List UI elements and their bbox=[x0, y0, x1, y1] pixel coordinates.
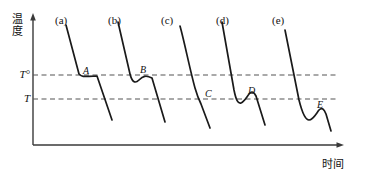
point-label-a: A bbox=[83, 65, 89, 76]
curve-label-e: (e) bbox=[272, 14, 284, 26]
x-axis-title: 时间 bbox=[322, 155, 344, 171]
curve-label-a: (a) bbox=[55, 14, 67, 26]
curve-c bbox=[180, 26, 210, 128]
curves-group bbox=[66, 22, 331, 131]
curve-label-b: (b) bbox=[108, 14, 121, 26]
point-label-d: D bbox=[248, 85, 255, 96]
curve-label-d: (d) bbox=[216, 14, 229, 26]
point-label-c: C bbox=[205, 88, 212, 99]
y-tick-label-upper: T° bbox=[8, 68, 30, 80]
y-axis-arrowhead bbox=[30, 13, 36, 21]
curve-label-c: (c) bbox=[161, 14, 173, 26]
point-label-b: B bbox=[140, 64, 146, 75]
curve-d bbox=[222, 22, 265, 125]
y-tick-label-lower: T bbox=[8, 92, 30, 104]
axes-group bbox=[30, 13, 344, 148]
curve-e bbox=[285, 30, 331, 131]
reference-lines-group bbox=[33, 75, 338, 99]
point-label-e: E bbox=[317, 99, 323, 110]
chart-canvas bbox=[0, 0, 370, 176]
x-axis-arrowhead bbox=[337, 142, 345, 148]
y-axis-title: 温度 bbox=[10, 14, 24, 38]
cooling-curve-figure: 温度 时间 T° T (a) (b) (c) (d) (e) A B C D E bbox=[0, 0, 370, 176]
